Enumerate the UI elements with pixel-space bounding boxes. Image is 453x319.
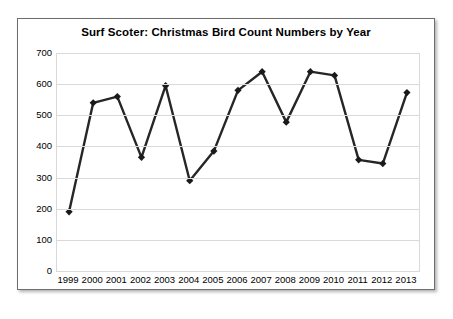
x-axis-tick-label: 2001 — [106, 275, 127, 285]
data-point-marker — [331, 72, 338, 79]
y-axis-tick-label: 700 — [18, 48, 52, 58]
x-axis-tick-label: 1999 — [57, 275, 78, 285]
gridline — [57, 209, 419, 210]
x-axis-tick-label: 2005 — [202, 275, 223, 285]
x-axis-tick-label: 2009 — [299, 275, 320, 285]
gridline — [57, 53, 419, 54]
data-point-marker — [355, 156, 362, 163]
data-point-marker — [379, 160, 386, 167]
gridline — [57, 240, 419, 241]
chart-frame: Surf Scoter: Christmas Bird Count Number… — [17, 18, 435, 290]
y-axis-tick-label: 500 — [18, 111, 52, 121]
plot-area — [56, 53, 420, 272]
x-axis-tick-label: 2008 — [275, 275, 296, 285]
gridline — [57, 146, 419, 147]
gridline — [57, 178, 419, 179]
x-axis: 1999200020012002200320042005200620072008… — [56, 275, 420, 291]
y-axis-tick-label: 100 — [18, 235, 52, 245]
data-point-marker — [138, 154, 145, 161]
y-axis-tick-label: 200 — [18, 204, 52, 214]
x-axis-tick-label: 2003 — [154, 275, 175, 285]
data-point-marker — [90, 99, 97, 106]
data-point-marker — [403, 89, 410, 96]
y-axis: 0100200300400500600700 — [18, 53, 52, 271]
gridline — [57, 84, 419, 85]
chart-title: Surf Scoter: Christmas Bird Count Number… — [18, 26, 434, 38]
data-point-marker — [114, 93, 121, 100]
x-axis-tick-label: 2002 — [130, 275, 151, 285]
y-axis-tick-label: 300 — [18, 173, 52, 183]
x-axis-tick-label: 2000 — [82, 275, 103, 285]
x-axis-tick-label: 2006 — [226, 275, 247, 285]
x-axis-tick-label: 2007 — [251, 275, 272, 285]
line-series — [57, 53, 419, 271]
x-axis-tick-label: 2010 — [323, 275, 344, 285]
y-axis-tick-label: 600 — [18, 79, 52, 89]
x-axis-tick-label: 2011 — [347, 275, 367, 285]
x-axis-tick-label: 2004 — [178, 275, 199, 285]
gridline — [57, 115, 419, 116]
y-axis-tick-label: 0 — [18, 266, 52, 276]
y-axis-tick-label: 400 — [18, 142, 52, 152]
x-axis-tick-label: 2012 — [371, 275, 392, 285]
x-axis-tick-label: 2013 — [395, 275, 416, 285]
